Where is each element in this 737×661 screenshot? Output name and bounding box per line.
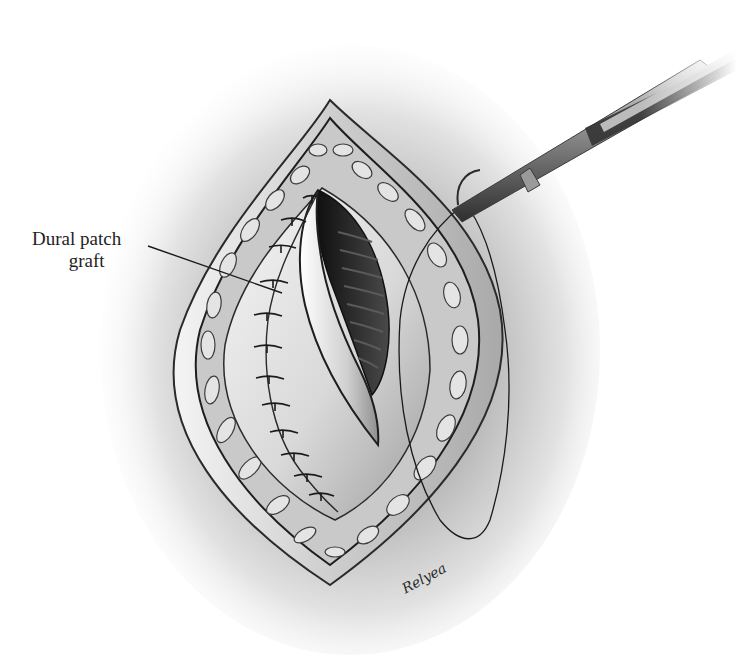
- illustration-canvas: [0, 0, 737, 661]
- label-line-1: Dural patch: [32, 228, 121, 250]
- surgical-illustration: Dural patch graft Relyea: [0, 0, 737, 661]
- dural-patch-graft-label: Dural patch graft: [32, 228, 121, 272]
- label-line-2: graft: [32, 250, 121, 272]
